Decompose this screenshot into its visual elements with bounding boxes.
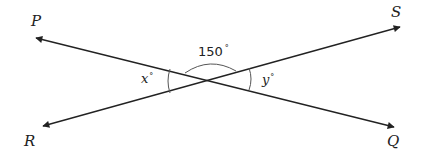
point-label-s: S — [391, 3, 401, 21]
angle-label-x: x° — [141, 71, 153, 86]
point-label-q: Q — [387, 132, 399, 150]
degree-sign-x: ° — [149, 71, 153, 80]
diagram-canvas: P S R Q 150° x° y° — [0, 0, 422, 154]
angle-value-150: 150 — [198, 44, 223, 59]
angle-label-150: 150° — [198, 44, 229, 59]
angle-arc-right — [249, 68, 251, 90]
diagram-svg: P S R Q 150° x° y° — [0, 0, 422, 154]
degree-sign-150: ° — [225, 44, 229, 53]
angle-var-y: y — [261, 72, 270, 87]
angle-label-y: y° — [261, 72, 274, 87]
line-rs — [43, 27, 400, 126]
point-label-p: P — [30, 12, 42, 30]
point-label-r: R — [23, 132, 35, 150]
angle-arc-top — [185, 64, 236, 73]
degree-sign-y: ° — [270, 72, 274, 81]
angle-arc-left — [168, 69, 170, 93]
angle-var-x: x — [141, 71, 149, 86]
